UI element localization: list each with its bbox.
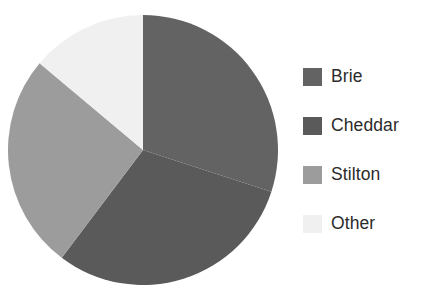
legend-item-cheddar[interactable]: Cheddar: [303, 101, 429, 150]
legend-swatch-stilton: [303, 166, 322, 184]
legend-label-other: Other: [331, 215, 375, 233]
legend-label-brie: Brie: [331, 68, 363, 86]
pie-chart-figure: BrieCheddarStiltonOther: [0, 0, 429, 294]
chart-legend: BrieCheddarStiltonOther: [303, 52, 429, 248]
legend-label-stilton: Stilton: [331, 166, 380, 184]
pie-svg: [0, 0, 296, 294]
legend-item-stilton[interactable]: Stilton: [303, 150, 429, 199]
legend-item-other[interactable]: Other: [303, 199, 429, 248]
legend-swatch-brie: [303, 68, 322, 86]
legend-label-cheddar: Cheddar: [331, 117, 399, 135]
legend-swatch-other: [303, 215, 322, 233]
pie-plot-area: [0, 0, 296, 294]
legend-swatch-cheddar: [303, 117, 322, 135]
pie-slice-group: [8, 15, 278, 285]
legend-item-brie[interactable]: Brie: [303, 52, 429, 101]
